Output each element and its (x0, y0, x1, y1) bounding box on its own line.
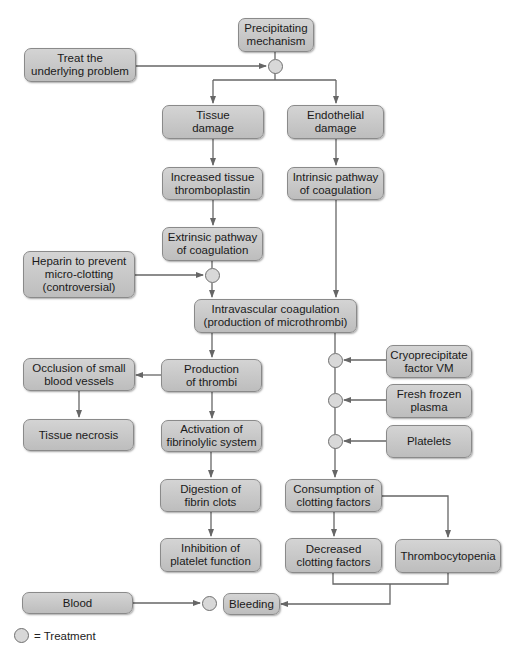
treatment-circle-icon (268, 59, 283, 74)
node-fresh-frozen-plasma: Fresh frozen plasma (386, 384, 472, 418)
node-consumption-clotting-factors: Consumption of clotting factors (285, 479, 382, 512)
legend: = Treatment (14, 628, 96, 643)
node-decreased-clotting-factors: Decreased clotting factors (285, 538, 382, 573)
node-extrinsic-pathway: Extrinsic pathway of coagulation (162, 227, 263, 261)
node-treat-underlying-problem: Treat the underlying problem (24, 48, 136, 82)
treatment-circle-icon (328, 393, 343, 408)
node-thrombocytopenia: Thrombocytopenia (395, 539, 501, 573)
node-occlusion-small-vessels: Occlusion of small blood vessels (23, 358, 135, 391)
node-tissue-damage: Tissue damage (162, 105, 264, 139)
node-increased-tissue-thromboplastin: Increased tissue thromboplastin (162, 167, 263, 200)
node-tissue-necrosis: Tissue necrosis (23, 419, 134, 451)
node-digestion-fibrin-clots: Digestion of fibrin clots (160, 479, 261, 512)
treatment-legend-circle-icon (14, 628, 29, 643)
treatment-circle-icon (328, 434, 343, 449)
node-production-of-thrombi: Production of thrombi (161, 359, 262, 392)
node-intravascular-coagulation: Intravascular coagulation (production of… (194, 299, 357, 333)
node-blood: Blood (22, 592, 133, 614)
node-endothelial-damage: Endothelial damage (287, 105, 384, 139)
node-heparin: Heparin to prevent micro-clotting (contr… (23, 251, 135, 298)
node-cryoprecipitate: Cryoprecipitate factor VM (386, 345, 472, 378)
treatment-circle-icon (205, 268, 220, 283)
node-intrinsic-pathway: Intrinsic pathway of coagulation (287, 167, 384, 200)
node-activation-fibrinolytic: Activation of fibrinolylic system (161, 420, 262, 452)
treatment-circle-icon (328, 353, 343, 368)
node-platelets: Platelets (386, 425, 472, 458)
node-precipitating-mechanism: Precipitating mechanism (238, 18, 314, 52)
treatment-circle-icon (202, 596, 217, 611)
legend-label: = Treatment (34, 630, 96, 642)
node-inhibition-platelet-function: Inhibition of platelet function (160, 538, 261, 572)
node-bleeding: Bleeding (223, 593, 280, 615)
